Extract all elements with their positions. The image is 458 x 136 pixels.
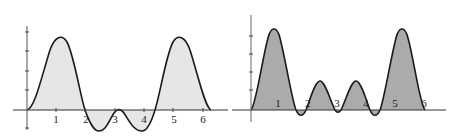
left-tick-label-4: 4 bbox=[141, 113, 147, 125]
left-tick-label-3: 3 bbox=[112, 113, 118, 125]
left-tick-label-6: 6 bbox=[200, 113, 206, 125]
chart-canvas: 1 2 3 4 5 6 1 2 3 4 5 6 bbox=[0, 0, 458, 136]
right-tick-label-1: 1 bbox=[275, 97, 281, 109]
right-chart: 1 2 3 4 5 6 bbox=[232, 15, 446, 122]
right-tick-label-4: 4 bbox=[363, 97, 369, 109]
left-tick-label-5: 5 bbox=[171, 113, 177, 125]
left-tick-label-2: 2 bbox=[83, 113, 89, 125]
right-tick-label-2: 2 bbox=[305, 97, 311, 109]
right-tick-label-3: 3 bbox=[334, 97, 340, 109]
right-tick-label-6: 6 bbox=[421, 97, 427, 109]
left-tick-label-1: 1 bbox=[53, 113, 59, 125]
right-tick-label-5: 5 bbox=[392, 97, 398, 109]
left-chart: 1 2 3 4 5 6 bbox=[13, 26, 228, 131]
